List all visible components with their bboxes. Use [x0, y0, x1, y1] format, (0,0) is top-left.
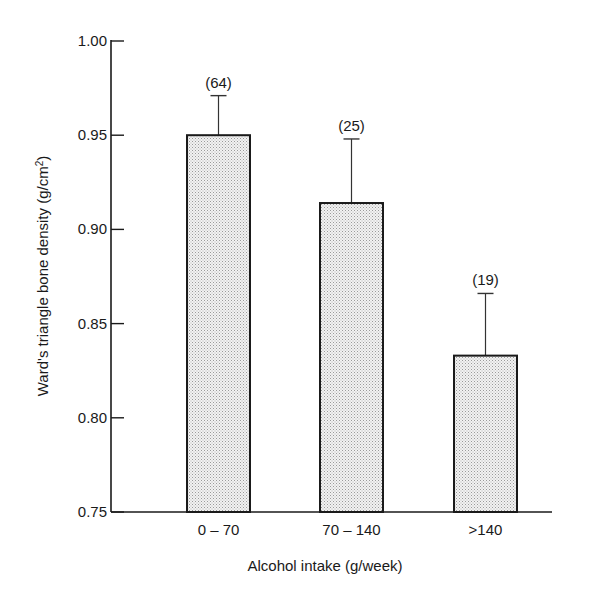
- bars: (64)0 – 70(25)70 – 140(19)>140: [187, 74, 517, 538]
- y-tick-label: 0.85: [78, 315, 107, 332]
- bar: [187, 135, 250, 512]
- x-category-label: >140: [469, 521, 503, 538]
- y-tick-label: 0.95: [78, 126, 107, 143]
- bar-group: (25)70 – 140: [320, 117, 383, 538]
- sample-size-label: (25): [338, 117, 365, 134]
- bar: [454, 356, 517, 512]
- bar-group: (19)>140: [454, 271, 517, 538]
- sample-size-label: (19): [472, 271, 499, 288]
- x-category-label: 0 – 70: [198, 521, 240, 538]
- y-ticks: 1.000.950.900.850.800.75: [78, 32, 124, 520]
- y-tick-label: 0.90: [78, 220, 107, 237]
- y-tick-label: 1.00: [78, 32, 107, 49]
- y-tick-label: 0.80: [78, 409, 107, 426]
- y-tick-label: 0.75: [78, 503, 107, 520]
- bar: [320, 203, 383, 512]
- x-category-label: 70 – 140: [322, 521, 380, 538]
- sample-size-label: (64): [205, 74, 232, 91]
- bar-group: (64)0 – 70: [187, 74, 250, 538]
- bar-chart: 1.000.950.900.850.800.75 (64)0 – 70(25)7…: [0, 0, 589, 599]
- y-axis-title: Ward's triangle bone density (g/cm2): [34, 156, 52, 396]
- x-axis-title: Alcohol intake (g/week): [247, 557, 402, 574]
